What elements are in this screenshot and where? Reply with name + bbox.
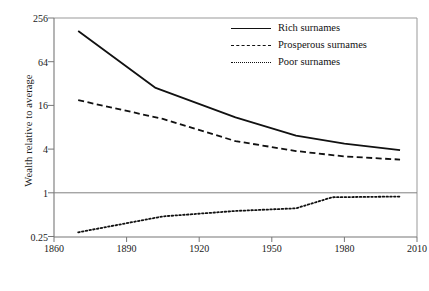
legend-swatch-dashed-icon	[231, 39, 271, 51]
x-axis-ticks	[54, 237, 417, 242]
series-line-prosperous-surnames	[78, 100, 400, 159]
legend-item-rich-surnames: Rich surnames	[231, 19, 367, 36]
legend-swatch-solid-icon	[231, 22, 271, 34]
chart-figure: Wealth relative to average 256 64 16 4 1…	[0, 0, 429, 291]
legend-swatch-dotted-icon	[231, 56, 271, 68]
series-line-poor-surnames	[78, 197, 400, 233]
y-axis-ticks	[48, 18, 54, 237]
chart-legend: Rich surnames Prosperous surnames Poor s…	[231, 19, 367, 70]
legend-item-prosperous-surnames: Prosperous surnames	[231, 36, 367, 53]
legend-label-poor-surnames: Poor surnames	[278, 56, 340, 67]
legend-label-rich-surnames: Rich surnames	[278, 22, 340, 33]
legend-label-prosperous-surnames: Prosperous surnames	[278, 39, 367, 50]
legend-item-poor-surnames: Poor surnames	[231, 53, 367, 70]
